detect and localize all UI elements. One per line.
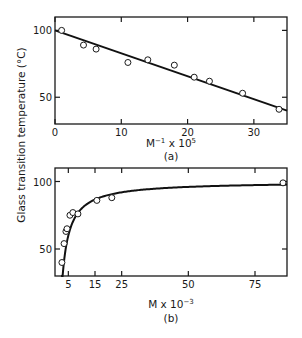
panel-a-data-point (206, 78, 212, 84)
panel-a-fit-line (55, 30, 287, 110)
panel-a-xlabel-base: M (146, 137, 155, 149)
panel-a-data-point (93, 46, 99, 52)
y-axis-label: Glass transition temperature (°C) (15, 47, 27, 222)
panel-b-xtick-label: 5 (65, 279, 71, 290)
panel-a-xtick-label: 30 (247, 127, 260, 138)
panel-b: 51525507550100 M x 10−3 (b) (33, 168, 287, 324)
panel-a-data-point (81, 42, 87, 48)
panel-b-ytick-label: 50 (39, 244, 52, 255)
panel-a-data-point (191, 74, 197, 80)
panel-a: 010203050100 M−1 x 105 (a) (33, 17, 287, 162)
panel-b-xtick-label: 25 (115, 279, 128, 290)
panel-b-data-point (61, 241, 67, 247)
panel-b-xlabel-sup: −3 (183, 298, 193, 306)
panel-a-x-axis-label: M−1 x 105 (146, 137, 196, 149)
panel-a-ytick-label: 100 (33, 25, 52, 36)
panel-b-xtick-label: 75 (249, 279, 262, 290)
panel-b-data-point (75, 211, 81, 217)
panel-a-data-point (240, 90, 246, 96)
panel-a-data-point (171, 62, 177, 68)
chart-figure: Glass transition temperature (°C) 010203… (0, 0, 302, 338)
panel-b-xlabel-base: M x 10 (148, 298, 183, 310)
panel-a-xtick-label: 10 (115, 127, 128, 138)
panel-a-xlabel-sup: −1 (155, 137, 165, 145)
panel-a-xtick-label: 0 (52, 127, 58, 138)
panel-a-caption: (a) (164, 150, 179, 162)
panel-b-data-point (59, 260, 65, 266)
panel-b-points (59, 180, 286, 266)
panel-a-tick-labels: 010203050100 (33, 25, 260, 138)
panel-b-data-point (109, 195, 115, 201)
panel-a-ytick-label: 50 (39, 92, 52, 103)
panel-b-ytick-label: 100 (33, 177, 52, 188)
panel-b-xtick-label: 15 (89, 279, 102, 290)
panel-b-data-point (280, 180, 286, 186)
panel-b-data-point (64, 226, 70, 232)
panel-b-xtick-label: 50 (182, 279, 195, 290)
panel-a-xlabel-suffix: x 10 (165, 137, 191, 149)
panel-a-data-point (276, 106, 282, 112)
panel-a-data-point (145, 57, 151, 63)
panel-a-xlabel-suffix-sup: 5 (192, 137, 196, 145)
panel-b-x-axis-label: M x 10−3 (148, 298, 194, 310)
panel-a-data-point (59, 27, 65, 33)
panel-a-data-point (125, 59, 131, 65)
panel-b-caption: (b) (164, 312, 179, 324)
panel-b-data-point (94, 197, 100, 203)
